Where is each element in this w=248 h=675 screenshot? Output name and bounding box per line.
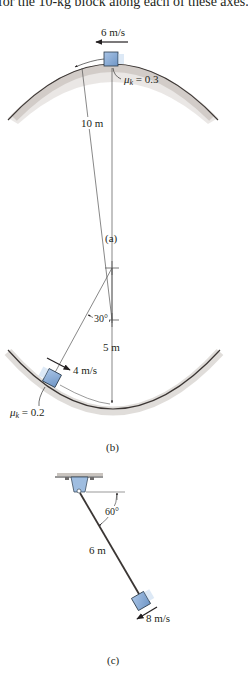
friction-label-b: μk = 0.2	[9, 406, 45, 420]
velocity-arrow-b	[47, 358, 70, 370]
figure-b: 30° 5 m 4 m/s μk = 0.2 (b)	[8, 261, 220, 454]
block-a-glow	[118, 54, 124, 64]
pin	[77, 489, 81, 493]
figure-a: 6 m/s μk = 0.3 10 m (a)	[8, 26, 218, 327]
block-a	[104, 52, 118, 66]
caption-a: (a)	[105, 232, 118, 245]
speed-label-c: 8 m/s	[146, 612, 170, 624]
angle-label-c: 60°	[105, 506, 119, 517]
radius-line	[82, 68, 112, 320]
bowl-shadow	[8, 352, 220, 411]
radius-label-b: 5 m	[103, 341, 120, 353]
length-label-c: 6 m	[89, 544, 106, 556]
speed-label-a: 6 m/s	[101, 26, 125, 38]
ceiling-shading	[57, 473, 103, 476]
caption-c: (c)	[107, 654, 120, 667]
diagram-canvas: 6 m/s μk = 0.3 10 m (a) 30° 5 m	[0, 0, 248, 675]
radius-label-a: 10 m	[81, 117, 104, 129]
figure-c: 60° 6 m 8 m/s (c)	[55, 473, 170, 667]
friction-label-a: μk = 0.3	[123, 73, 159, 87]
bolt-left	[65, 477, 69, 480]
bolt-right	[90, 477, 94, 480]
angle-label-b: 30°	[94, 313, 108, 324]
speed-label-b: 4 m/s	[73, 364, 97, 376]
caption-b: (b)	[106, 441, 119, 454]
